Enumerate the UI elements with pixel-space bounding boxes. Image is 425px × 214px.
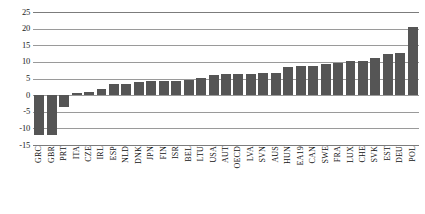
x-tick-grc: GRC (33, 146, 45, 212)
x-tick-oecd: OECD (232, 146, 244, 212)
x-tick-label: ESP (110, 146, 118, 160)
x-tick-svk: SVK (369, 146, 381, 212)
x-tick-can: CAN (307, 146, 319, 212)
x-tick-lux: LUX (344, 146, 356, 212)
x-tick-label: AUT (222, 146, 230, 163)
x-tick-cze: CZE (83, 146, 95, 212)
x-tick-lva: LVA (245, 146, 257, 212)
x-tick-label: CHE (359, 146, 367, 163)
bar-prt (59, 95, 69, 107)
y-tick-label: 15 (4, 41, 30, 50)
bar-che (358, 61, 368, 96)
bar-esp (109, 84, 119, 95)
y-tick-label: 10 (4, 57, 30, 66)
bar-chart: 2520151050-5-10-15 GRCGBRPRTITACZEIRLESP… (0, 0, 425, 214)
x-tick-label: GBR (48, 146, 56, 163)
bar-fin (159, 81, 169, 95)
x-tick-aut: AUT (220, 146, 232, 212)
bar-fra (333, 63, 343, 95)
bar-grc (34, 95, 44, 135)
bar-aus (271, 73, 281, 95)
x-tick-label: DNK (135, 146, 143, 164)
x-tick-label: SVK (371, 146, 379, 163)
bar-ltu (196, 78, 206, 95)
y-axis-tick-labels: 2520151050-5-10-15 (0, 12, 30, 145)
bar-lux (346, 61, 356, 95)
x-tick-ita: ITA (70, 146, 82, 212)
x-tick-label: BEL (185, 146, 193, 162)
x-tick-label: LUX (347, 146, 355, 163)
plot-area (33, 12, 419, 145)
bar-can (308, 66, 318, 95)
x-tick-label: IRL (97, 146, 105, 160)
x-tick-pol: POL (407, 146, 419, 212)
x-tick-label: AUS (272, 146, 280, 163)
y-tick-label: -5 (4, 107, 30, 116)
x-tick-deu: DEU (394, 146, 406, 212)
x-tick-label: FIN (160, 146, 168, 160)
x-tick-label: EA19 (297, 146, 305, 165)
bar-oecd (233, 74, 243, 95)
bar-deu (395, 53, 405, 95)
x-tick-label: CAN (309, 146, 317, 164)
x-tick-label: POL (409, 146, 417, 162)
x-tick-dnk: DNK (133, 146, 145, 212)
x-tick-nld: NLD (120, 146, 132, 212)
x-tick-label: EST (384, 146, 392, 161)
x-tick-label: DEU (396, 146, 404, 163)
x-tick-usa: USA (207, 146, 219, 212)
bar-nld (121, 84, 131, 95)
x-tick-che: CHE (357, 146, 369, 212)
bar-dnk (134, 82, 144, 95)
x-tick-esp: ESP (108, 146, 120, 212)
x-tick-label: FRA (334, 146, 342, 162)
x-tick-ea19: EA19 (294, 146, 306, 212)
x-tick-est: EST (382, 146, 394, 212)
x-tick-jpn: JPN (145, 146, 157, 212)
x-tick-label: ITA (73, 146, 81, 159)
x-tick-swe: SWE (319, 146, 331, 212)
x-tick-bel: BEL (182, 146, 194, 212)
bar-aut (221, 74, 231, 95)
x-tick-aus: AUS (270, 146, 282, 212)
bar-lva (246, 74, 256, 95)
x-tick-ltu: LTU (195, 146, 207, 212)
bar-ea19 (296, 66, 306, 95)
bar-bel (184, 80, 194, 95)
bars-layer (33, 12, 419, 145)
x-tick-label: LTU (197, 146, 205, 161)
y-tick-label: 5 (4, 74, 30, 83)
bar-svn (258, 73, 268, 95)
y-tick-label: -15 (4, 141, 30, 150)
x-tick-label: USA (210, 146, 218, 163)
bar-pol (408, 27, 418, 95)
x-tick-label: HUN (284, 146, 292, 164)
x-tick-label: LVA (247, 146, 255, 161)
bar-swe (321, 64, 331, 95)
bar-isr (171, 81, 181, 95)
x-tick-fin: FIN (158, 146, 170, 212)
x-tick-label: OECD (234, 146, 242, 169)
bar-irl (97, 89, 107, 95)
y-tick-label: 25 (4, 8, 30, 17)
x-tick-svn: SVN (257, 146, 269, 212)
y-tick-label: -10 (4, 124, 30, 133)
bar-cze (84, 92, 94, 95)
y-tick-label: 20 (4, 24, 30, 33)
y-tick-label: 0 (4, 91, 30, 100)
x-tick-fra: FRA (332, 146, 344, 212)
bar-usa (209, 75, 219, 95)
x-tick-label: NLD (122, 146, 130, 163)
x-tick-prt: PRT (58, 146, 70, 212)
x-axis-tick-labels: GRCGBRPRTITACZEIRLESPNLDDNKJPNFINISRBELL… (33, 146, 419, 212)
x-tick-label: SWE (322, 146, 330, 164)
x-tick-irl: IRL (95, 146, 107, 212)
bar-svk (370, 58, 380, 95)
x-tick-label: CZE (85, 146, 93, 162)
x-tick-label: PRT (60, 146, 68, 161)
x-tick-label: SVN (259, 146, 267, 163)
x-tick-gbr: GBR (45, 146, 57, 212)
bar-est (383, 54, 393, 95)
bar-jpn (146, 81, 156, 95)
x-tick-hun: HUN (282, 146, 294, 212)
